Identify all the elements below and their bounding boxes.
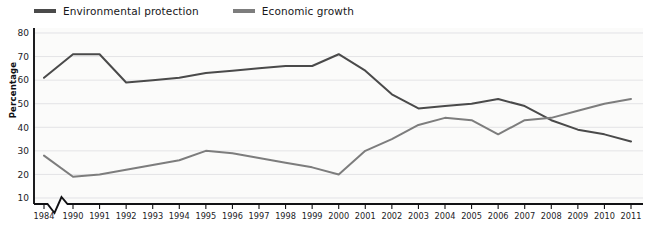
line-chart: Environmental protection Economic growth…: [0, 0, 645, 236]
x-axis-tick-label: 2009: [567, 211, 588, 221]
y-axis-tick-label: 70: [18, 52, 30, 62]
x-axis-tick-label: 2000: [328, 211, 349, 221]
plot-area: 1020304050607080 19841990199119921993199…: [0, 0, 645, 236]
x-axis-tick-label: 1999: [302, 211, 323, 221]
x-axis-tick-label: 1991: [89, 211, 110, 221]
x-axis-tick-label: 1994: [169, 211, 190, 221]
x-axis-tick-label: 1996: [222, 211, 243, 221]
x-axis-tick-label: 1984: [34, 211, 55, 221]
y-axis-tick-label: 10: [18, 193, 30, 203]
x-axis-tick-labels: 1984199019911992199319941995199619971998…: [34, 211, 642, 221]
x-axis-tick-label: 1990: [63, 211, 84, 221]
x-axis-tick-label: 2008: [541, 211, 562, 221]
x-axis-tick-label: 2003: [408, 211, 429, 221]
x-axis-tick-label: 2002: [381, 211, 402, 221]
x-axis-tick-label: 2001: [355, 211, 376, 221]
x-axis-tick-label: 1995: [195, 211, 216, 221]
y-axis-tick-label: 40: [18, 123, 30, 133]
x-axis-tick-label: 2010: [594, 211, 615, 221]
x-axis-tick-label: 2007: [514, 211, 535, 221]
x-axis-tick-label: 1997: [249, 211, 270, 221]
y-axis-tick-label: 50: [18, 99, 30, 109]
y-axis-tick-labels: 1020304050607080: [18, 28, 30, 203]
x-axis-tick-label: 1993: [142, 211, 163, 221]
y-axis-tick-label: 20: [18, 170, 30, 180]
x-axis-tick-label: 1998: [275, 211, 296, 221]
x-axis-tick-label: 2011: [621, 211, 642, 221]
x-axis-tick-label: 2004: [435, 211, 456, 221]
x-axis-tick-label: 1992: [116, 211, 137, 221]
y-axis-tick-label: 80: [18, 28, 30, 38]
y-axis-tick-label: 30: [18, 146, 30, 156]
y-axis-tick-label: 60: [18, 75, 30, 85]
x-axis-tick-label: 2006: [488, 211, 509, 221]
x-axis-tick-label: 2005: [461, 211, 482, 221]
